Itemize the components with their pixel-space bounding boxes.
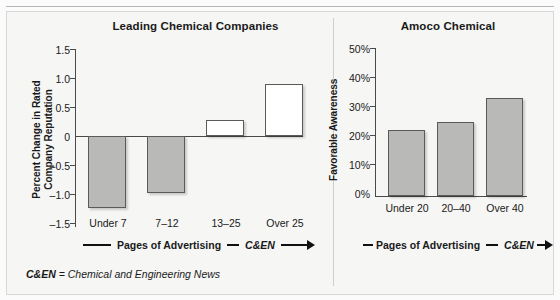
figure-root: Leading Chemical Companies Percent Chang…	[0, 0, 560, 300]
left-tick-neg1_5	[70, 223, 75, 224]
right-bar-20-40	[437, 122, 474, 196]
right-tick-30	[370, 106, 375, 107]
right-x-axis-caption: Pages of Advertising C&EN	[363, 239, 553, 251]
left-caption-lead-rule	[83, 244, 111, 246]
left-caption-mid-rule	[227, 244, 239, 246]
footnote-text: Chemical and Engineering News	[68, 268, 220, 280]
right-cat-20-40: 20–40	[429, 202, 483, 214]
left-ytick-neg1_5: –1.5	[34, 218, 70, 230]
right-cat-over-40: Over 40	[478, 202, 532, 214]
left-ytick-neg1_0: –1.0	[34, 189, 70, 201]
footnote-abbr: C&EN	[26, 268, 56, 280]
left-ytick-1_5: 1.5	[38, 44, 70, 56]
right-ytick-30: 30%	[338, 101, 370, 113]
left-chart-title: Leading Chemical Companies	[78, 20, 313, 32]
right-caption-text: Pages of Advertising	[376, 239, 480, 251]
left-caption-arrow-icon	[281, 240, 315, 250]
right-caption-mid-rule	[486, 244, 498, 246]
right-bar-under-20	[388, 130, 425, 196]
right-caption-lead-rule	[363, 244, 373, 246]
right-tick-20	[370, 135, 375, 136]
figure-footnote: C&EN = Chemical and Engineering News	[26, 268, 220, 280]
right-tick-10	[370, 164, 375, 165]
left-bar-7-12	[147, 136, 185, 193]
right-ytick-20: 20%	[338, 130, 370, 142]
footnote-equals: =	[56, 268, 68, 280]
left-cat-7-12: 7–12	[141, 217, 193, 229]
left-tick-0_5	[70, 107, 75, 108]
left-cat-over-25: Over 25	[259, 217, 311, 229]
left-tick-neg0_5	[70, 165, 75, 166]
left-bar-under-7	[88, 136, 126, 208]
left-cat-under-7: Under 7	[82, 217, 134, 229]
right-ytick-10: 10%	[338, 159, 370, 171]
right-caption-cen: C&EN	[504, 239, 534, 251]
right-tick-40	[370, 77, 375, 78]
left-bar-13-25	[206, 120, 244, 136]
right-caption-arrow-icon	[537, 240, 553, 250]
right-zero-baseline	[375, 196, 527, 197]
left-bar-over-25	[265, 84, 303, 136]
left-tick-1_5	[70, 49, 75, 50]
left-ytick-1_0: 1.0	[38, 73, 70, 85]
right-cat-under-20: Under 20	[380, 202, 434, 214]
left-cat-13-25: 13–25	[200, 217, 252, 229]
right-y-axis-line	[375, 48, 376, 196]
right-tick-50	[370, 48, 375, 49]
left-y-axis-line	[75, 49, 76, 227]
right-chart-title: Amoco Chemical	[368, 20, 528, 32]
left-tick-1_0	[70, 78, 75, 79]
left-x-axis-caption: Pages of Advertising C&EN	[83, 239, 315, 251]
right-bar-over-40	[486, 98, 523, 196]
left-ytick-0: 0	[38, 131, 70, 143]
left-tick-neg1_0	[70, 194, 75, 195]
right-ytick-0: 0%	[338, 188, 370, 200]
right-ytick-50: 50%	[338, 43, 370, 55]
left-ytick-neg0_5: –0.5	[34, 160, 70, 172]
left-caption-text: Pages of Advertising	[117, 239, 221, 251]
top-rule	[6, 6, 554, 7]
left-ytick-0_5: 0.5	[38, 102, 70, 114]
right-ytick-40: 40%	[338, 72, 370, 84]
left-caption-cen: C&EN	[245, 239, 275, 251]
